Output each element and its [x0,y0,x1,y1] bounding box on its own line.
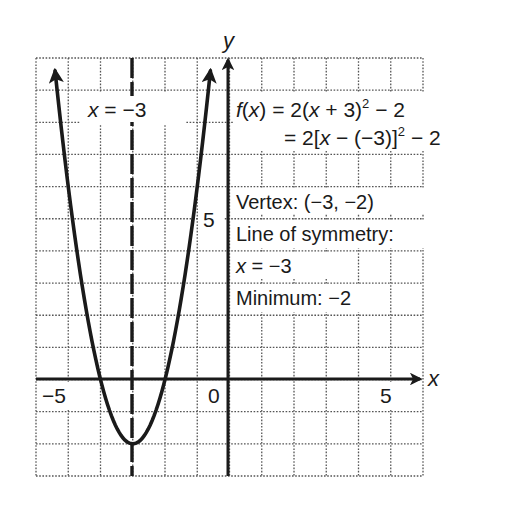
vertex-label: Vertex: (−3, −2) [236,191,374,213]
minimum-label: Minimum: −2 [236,287,351,309]
symmetry-value: x = −3 [235,255,292,277]
y-axis-label: y [221,28,236,53]
x-axis-label: x [427,366,440,391]
equation-line-2: = 2[x − (−3)]2 − 2 [284,124,441,149]
x-tick-0: 0 [208,384,220,407]
y-tick-5: 5 [203,208,215,231]
equation-line-1: f(x) = 2(x + 3)2 − 2 [236,96,405,121]
x-tick-neg5: −5 [42,384,66,407]
symmetry-heading: Line of symmetry: [236,223,394,245]
x-tick-5: 5 [380,384,392,407]
symmetry-line-label: x = −3 [87,98,146,121]
parabola-graph: x = −3 f(x) = 2(x + 3)2 − 2 = 2[x − (−3)… [0,0,526,510]
